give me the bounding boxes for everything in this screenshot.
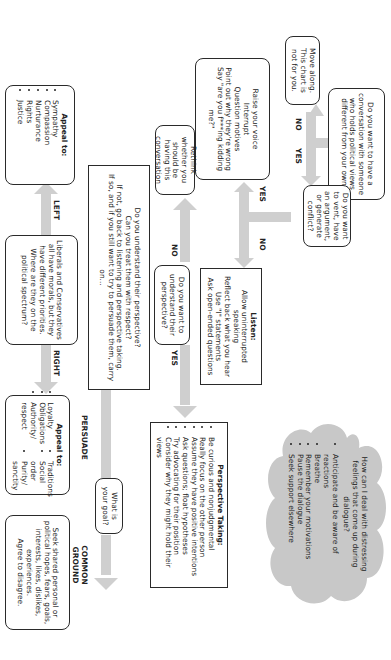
feelings-item: Pause the dialogue — [295, 454, 304, 584]
appeal-left-list: Sympathy Compassion Nurturance Rights Ju… — [16, 90, 60, 145]
common-ground-box: Seek shared personal or political hopes,… — [5, 515, 70, 630]
move-along-text: Move along. This chart is not for you. — [289, 41, 315, 100]
appeal-left-title: Appeal to: — [59, 114, 68, 157]
appeal-right-item: Traditions — [46, 461, 55, 497]
appeal-right-item: Authority/ respect — [19, 402, 36, 444]
appeal-right-col1: Loyalty Obligations Authority/ respect — [11, 393, 55, 444]
understand-no-label: NO — [170, 244, 179, 257]
appeal-left-box: Appeal to: Sympathy Compassion Nurturanc… — [5, 85, 75, 185]
persuade-label: PERSUADE — [80, 415, 89, 460]
understand-yes-label: YES — [170, 350, 179, 366]
listen-line: Ask open-ended questions — [205, 278, 214, 376]
check-understanding-box: Do you understand their perspective? Can… — [88, 165, 150, 390]
feelings-item: Seek support elsewhere — [286, 454, 295, 584]
right-label: RIGHT — [52, 350, 61, 376]
perspective-item: Assume they have positive intentions — [189, 437, 198, 583]
start-no-label: NO — [294, 118, 303, 131]
appeal-right-item: Obligations — [37, 402, 46, 444]
appeal-right-item: Loyalty — [46, 402, 55, 444]
check-line: Can you treat them with respect? — [123, 216, 132, 340]
common-ground-text: Seek shared personal or political hopes,… — [24, 520, 59, 625]
conflict-line: Say "are you f***ing kidding me?" — [206, 63, 223, 175]
appeal-right-col2: Traditions Social order Purity/ sanctity — [11, 452, 55, 497]
understand-question-box: Do you want to understand their perspect… — [154, 265, 190, 345]
perspective-item: Really focus on the other person — [198, 437, 207, 583]
spectrum-text: Liberals and Conservatives all have mora… — [20, 240, 64, 340]
flowchart-canvas: Do you want to have a conversation with … — [0, 0, 391, 660]
perspective-item: Try advocating for their position — [172, 437, 181, 583]
check-line: Do you understand their perspective? — [132, 208, 141, 348]
vent-question-text: Do you want to vent, have an argument, o… — [305, 190, 349, 242]
feelings-item: Anticipate and be aware of reactions — [321, 454, 338, 584]
vent-question-box: Do you want to vent, have an argument, o… — [303, 185, 351, 247]
goal-question-text: What is your goal? — [100, 483, 117, 529]
start-yes-label: YES — [294, 148, 303, 164]
left-label: LEFT — [52, 200, 61, 220]
appeal-right-box: Appeal to: Loyalty Obligations Authority… — [5, 395, 70, 495]
move-along-box: Move along. This chart is not for you. — [285, 36, 320, 105]
conflict-line: Interrupt — [241, 103, 250, 136]
feelings-item: Remember your motivations — [304, 454, 313, 584]
feelings-question: How can I deal with distressing feelings… — [342, 444, 368, 584]
perspective-item: Consider why they might hold their views — [154, 437, 171, 583]
conflict-line: Raise your voice — [250, 89, 259, 150]
start-question-text: Do you want to have a conversation with … — [339, 93, 374, 195]
listen-title: Listen: — [248, 312, 257, 340]
conflict-actions-box: Raise your voice Interrupt Question moti… — [195, 58, 270, 180]
listen-line: Use "I" statements — [214, 292, 223, 361]
appeal-left-item: Nurturance — [33, 100, 42, 145]
conflict-line: Question motives — [233, 87, 242, 152]
common-ground-label: COMMON GROUND — [71, 540, 89, 590]
appeal-right-columns: Loyalty Obligations Authority/ respect T… — [11, 393, 55, 497]
perspective-item: Be curious and nonjudgmental — [206, 437, 215, 583]
check-line: If so, and if you still want to try to p… — [97, 170, 114, 385]
political-spectrum-box: Liberals and Conservatives all have mora… — [5, 235, 78, 345]
understand-question-text: Do you want to understand their perspect… — [159, 270, 185, 340]
listen-box: Listen: Allow uninterrupted speaking Ref… — [200, 268, 262, 385]
agree-to-disagree-text: Agree to disagree. — [16, 539, 25, 607]
appeal-left-item: Justice — [16, 100, 25, 145]
check-line: If not, go back to listening and perspec… — [115, 184, 124, 370]
appeal-left-item: Compassion — [42, 100, 51, 145]
start-question-box: Do you want to have a conversation with … — [328, 88, 385, 200]
appeal-left-item: Rights — [24, 100, 33, 145]
perspective-item: Ask questions; float hypotheses — [180, 437, 189, 583]
feelings-list: Anticipate and be aware of reactions Bre… — [286, 444, 338, 584]
rethink-box: Rethink whether you should be having thi… — [155, 125, 195, 195]
perspective-list: Be curious and nonjudgmental Really focu… — [154, 427, 215, 583]
perspective-taking-box: Perspective Taking: Be curious and nonju… — [150, 422, 228, 588]
vent-no-label: NO — [258, 238, 267, 251]
appeal-right-title: Appeal to: — [54, 424, 63, 467]
feelings-cloud-text: How can I deal with distressing feelings… — [283, 440, 371, 588]
conflict-line: Point out why they're wrong — [224, 67, 233, 171]
appeal-right-item: Social order — [28, 461, 45, 497]
appeal-left-item: Sympathy — [51, 100, 60, 145]
appeal-right-item: Purity/ sanctity — [11, 461, 28, 497]
goal-question-box: What is your goal? — [95, 478, 123, 534]
rethink-text: Rethink whether you should be having thi… — [153, 130, 197, 190]
perspective-title: Perspective Taking: — [215, 464, 224, 546]
listen-line: Reflect back what you hear — [222, 276, 231, 377]
listen-line: Allow uninterrupted speaking — [231, 273, 248, 380]
feelings-item: Breathe — [312, 454, 321, 584]
vent-yes-label: YES — [258, 186, 267, 202]
